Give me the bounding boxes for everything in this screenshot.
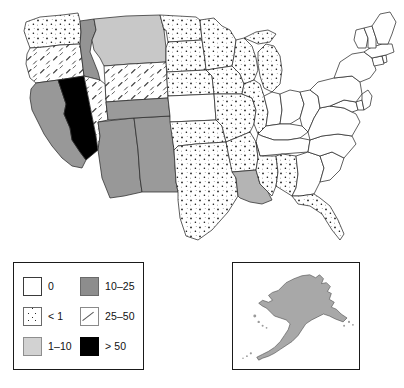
legend-grid: 0 10–25 < 1 25–50 1–10 > 50 xyxy=(14,263,143,369)
legend-item-0: 0 xyxy=(23,271,80,301)
legend-swatch-1-10-icon xyxy=(23,337,42,356)
choropleth-map-figure: 0 10–25 < 1 25–50 1–10 > 50 xyxy=(0,0,404,388)
legend: 0 10–25 < 1 25–50 1–10 > 50 xyxy=(13,262,144,370)
state-KS xyxy=(168,94,216,122)
legend-swatch-25-50-icon xyxy=(80,307,99,326)
state-FL xyxy=(292,194,344,240)
legend-label-1-10: 1–10 xyxy=(48,340,72,352)
legend-label-gt-50: > 50 xyxy=(105,340,126,352)
legend-item-10-25: 10–25 xyxy=(80,271,137,301)
state-TX xyxy=(174,142,238,240)
state-AK xyxy=(257,275,347,360)
legend-item-lt-1: < 1 xyxy=(23,301,80,331)
state-WY xyxy=(104,62,168,102)
state-NE xyxy=(167,70,214,96)
legend-item-1-10: 1–10 xyxy=(23,331,80,361)
state-WA xyxy=(24,13,81,48)
state-SD xyxy=(166,40,206,72)
legend-label-10-25: 10–25 xyxy=(105,280,135,292)
state-AL xyxy=(276,154,298,196)
legend-swatch-lt-1-icon xyxy=(23,307,42,326)
state-NJ xyxy=(362,90,372,110)
legend-item-gt-50: > 50 xyxy=(80,331,137,361)
legend-label-25-50: 25–50 xyxy=(105,310,135,322)
us-map xyxy=(0,0,404,252)
alaska-inset xyxy=(232,262,360,370)
legend-label-0: 0 xyxy=(48,280,54,292)
legend-item-25-50: 25–50 xyxy=(80,301,137,331)
legend-label-lt-1: < 1 xyxy=(48,310,63,322)
legend-swatch-0-icon xyxy=(23,277,42,296)
legend-swatch-gt-50-icon xyxy=(80,337,99,356)
state-MN xyxy=(200,18,236,70)
state-ND xyxy=(160,15,202,42)
state-MT xyxy=(92,15,166,66)
legend-swatch-10-25-icon xyxy=(80,277,99,296)
state-CO xyxy=(106,98,170,120)
